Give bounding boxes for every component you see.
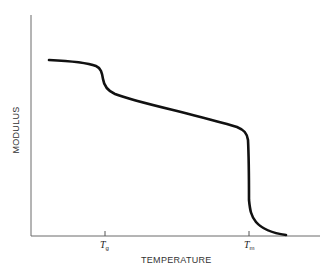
tg-tick-label: Tg [100, 239, 109, 251]
chart-plot-area [0, 0, 335, 277]
y-axis-label: MODULUS [11, 100, 21, 160]
tg-subscript: g [106, 245, 109, 251]
modulus-curve [49, 60, 286, 235]
tm-subscript: m [250, 245, 255, 251]
tm-tick-label: Tm [244, 239, 255, 251]
x-axis-label: TEMPERATURE [141, 255, 212, 265]
